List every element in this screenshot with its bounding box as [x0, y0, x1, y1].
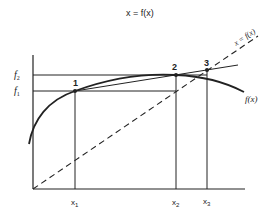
point-3-label: 3 — [204, 58, 209, 68]
point-1-label: 1 — [73, 78, 78, 88]
diagonal-line — [33, 36, 258, 189]
point-2-marker — [174, 73, 178, 77]
fx-curve-label: f(x) — [245, 94, 258, 104]
diagram-title: x = f(x) — [126, 8, 154, 18]
secant-line — [75, 65, 238, 91]
x3-label: x3 — [203, 197, 211, 207]
point-2-label: 2 — [172, 62, 177, 72]
point-3-marker — [205, 68, 209, 72]
x1-label: x1 — [71, 198, 79, 208]
fx-curve — [29, 75, 244, 144]
f1-label: f1 — [14, 85, 20, 97]
x2-label: x2 — [172, 198, 180, 208]
point-1-marker — [73, 89, 77, 93]
f2-label: f2 — [14, 69, 20, 81]
fixed-point-iteration-diagram: x = f(x) 1 2 3 f2 f1 f(x) x = f(x) x1 x2… — [0, 0, 280, 220]
